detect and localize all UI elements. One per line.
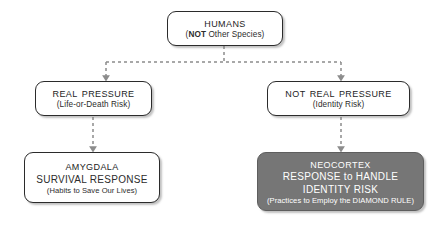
- node-amygdala-title: Amygdala: [65, 159, 118, 173]
- node-amygdala-line3: (Habits to Save Our Lives): [47, 186, 137, 196]
- node-neocortex: Neocortex RESPONSE to HANDLE IDENTITY RI…: [257, 152, 424, 211]
- node-amygdala: Amygdala SURVIVAL RESPONSE (Habits to Sa…: [24, 152, 160, 203]
- node-neocortex-line2: RESPONSE to HANDLE: [283, 171, 398, 184]
- node-real-pressure: Real Pressure (Life-or-Death Risk): [35, 81, 152, 116]
- node-not-real-pressure-subtitle: (Identity Risk): [313, 100, 365, 111]
- node-neocortex-line3: IDENTITY RISK: [303, 184, 378, 197]
- node-neocortex-line4: (Practices to Employ the DIAMOND RULE): [267, 196, 414, 206]
- node-humans: Humans (NOT Other Species): [167, 11, 283, 46]
- node-real-pressure-title: Real Pressure: [53, 86, 135, 100]
- node-real-pressure-subtitle: (Life-or-Death Risk): [57, 100, 130, 111]
- node-amygdala-line2: SURVIVAL RESPONSE: [36, 174, 148, 187]
- node-humans-title: Humans: [204, 16, 245, 30]
- flowchart-diagram: Humans (NOT Other Species) Real Pressure…: [0, 0, 444, 229]
- node-not-real-pressure-title: Not Real Pressure: [285, 86, 391, 100]
- node-humans-subtitle: (NOT Other Species): [186, 30, 265, 41]
- node-neocortex-title: Neocortex: [310, 157, 370, 171]
- node-humans-subtitle-emphasis: NOT: [188, 30, 206, 39]
- node-humans-subtitle-rest: Other Species): [206, 30, 264, 39]
- node-not-real-pressure: Not Real Pressure (Identity Risk): [267, 81, 410, 116]
